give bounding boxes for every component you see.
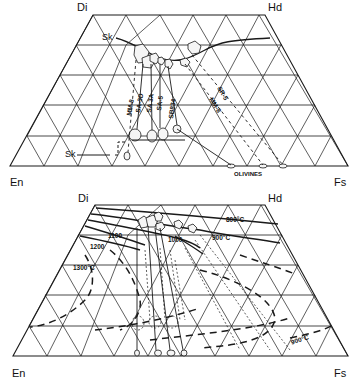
isotherm-label-1200: 1200 [90, 243, 104, 250]
corner-label-en: En [10, 176, 23, 188]
pyroxene-quadrilateral-diagrams [0, 0, 361, 386]
corner-label-fs: Fs [334, 176, 346, 188]
corner-label-di-bottom: Di [78, 192, 88, 204]
isotherm-label-900: 900°C [212, 234, 230, 241]
bottom-quadrilateral [13, 205, 348, 356]
sk-label-lower: Sk [65, 149, 76, 159]
corner-label-di: Di [77, 1, 87, 13]
isotherm-label-1300: 1300°C [73, 264, 95, 271]
top-quadrilateral [10, 15, 348, 168]
corner-label-fs-bottom: Fs [334, 367, 346, 379]
isotherm-label-1100: 1100 [108, 232, 122, 239]
corner-label-hd-bottom: Hd [268, 192, 282, 204]
corner-label-hd: Hd [268, 1, 282, 13]
isotherm-label-800: 800°C [226, 216, 244, 223]
isotherm-label-1000: 1000 [168, 236, 182, 243]
olivines-label: OLIVINES [234, 171, 262, 177]
corner-label-en-bottom: En [12, 367, 25, 379]
sk-label-upper: Sk [102, 32, 113, 42]
